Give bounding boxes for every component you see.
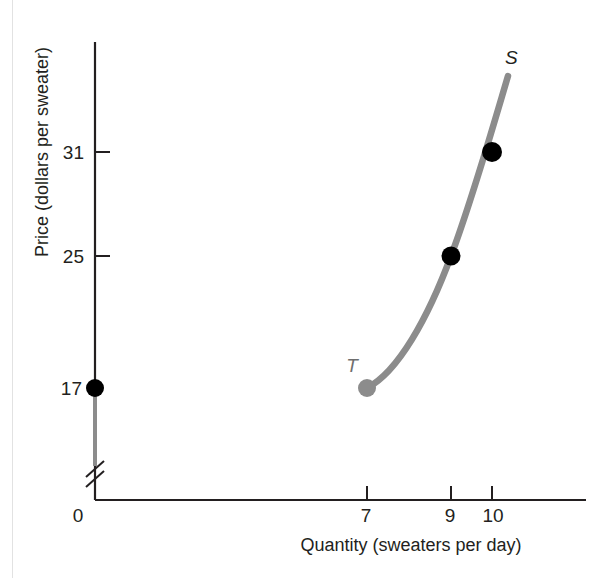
supply-curve (367, 76, 508, 388)
supply-curve-label-s: S (505, 47, 518, 68)
y-tick-label-25: 25 (63, 246, 84, 267)
x-axis-ticks (367, 486, 492, 500)
data-point-9-25 (442, 247, 461, 266)
x-axis-title: Quantity (sweaters per day) (300, 535, 521, 555)
y-axis-title: Price (dollars per sweater) (32, 47, 52, 257)
y-axis-ticks (95, 152, 110, 256)
curve-origin-label-t: T (346, 355, 359, 376)
data-point-10-31 (482, 142, 502, 162)
supply-curve-figure: 31 25 17 0 7 9 10 Price (dollars per swe… (0, 0, 611, 578)
axes-group (95, 42, 586, 500)
data-point-T-7-17 (358, 379, 376, 397)
x-tick-label-9: 9 (445, 505, 456, 526)
x-tick-label-7: 7 (361, 505, 372, 526)
origin-label-0: 0 (73, 505, 84, 526)
data-point-markers (86, 142, 502, 397)
data-point-0-17 (86, 379, 104, 397)
x-tick-label-10: 10 (482, 505, 503, 526)
y-tick-label-17: 17 (61, 378, 82, 399)
y-tick-label-31: 31 (63, 142, 84, 163)
chart-canvas: 31 25 17 0 7 9 10 Price (dollars per swe… (0, 0, 611, 578)
